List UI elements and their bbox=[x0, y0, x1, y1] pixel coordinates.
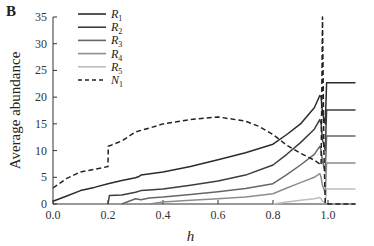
y-tick-label: 35 bbox=[35, 10, 47, 24]
y-tick-label: 30 bbox=[35, 37, 47, 51]
x-tick-label: 1.0 bbox=[321, 208, 336, 222]
x-tick-label: 0.4 bbox=[156, 208, 171, 222]
series-layer bbox=[53, 17, 356, 204]
x-tick-label: 0.0 bbox=[46, 208, 61, 222]
x-tick-label: 0.8 bbox=[266, 208, 281, 222]
y-tick-label: 5 bbox=[41, 170, 47, 184]
series-n1 bbox=[53, 17, 356, 204]
x-axis-title: h bbox=[187, 228, 195, 244]
legend: R1R2R3R4R5N1 bbox=[78, 7, 123, 89]
y-tick-label: 15 bbox=[35, 117, 47, 131]
x-tick-label: 0.2 bbox=[101, 208, 116, 222]
line-chart: 051015202530350.00.20.40.60.81.0hAverage… bbox=[0, 0, 374, 246]
axes: 051015202530350.00.20.40.60.81.0hAverage… bbox=[7, 10, 356, 244]
series-r5 bbox=[273, 189, 356, 204]
y-tick-label: 25 bbox=[35, 63, 47, 77]
y-axis-title: Average abundance bbox=[7, 51, 23, 169]
series-r3 bbox=[122, 136, 356, 204]
y-tick-label: 20 bbox=[35, 90, 47, 104]
x-tick-label: 0.6 bbox=[211, 208, 226, 222]
y-tick-label: 10 bbox=[35, 144, 47, 158]
